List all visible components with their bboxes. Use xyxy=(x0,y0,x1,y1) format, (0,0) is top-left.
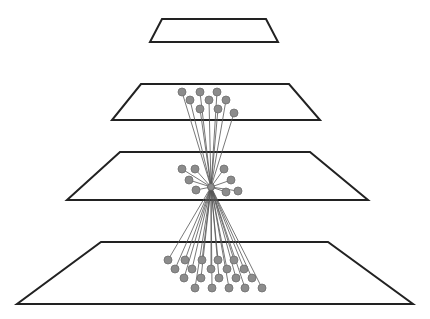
node-lower xyxy=(164,256,172,264)
node-lower xyxy=(214,256,222,264)
node-local xyxy=(192,186,200,194)
node-lower xyxy=(223,265,231,273)
node-upper xyxy=(205,96,213,104)
node-local xyxy=(234,187,242,195)
node-lower xyxy=(232,274,240,282)
node-lower xyxy=(258,284,266,292)
node-local xyxy=(185,176,193,184)
node-lower xyxy=(225,284,233,292)
node-local xyxy=(222,188,230,196)
node-upper xyxy=(196,88,204,96)
node-upper xyxy=(213,88,221,96)
plane-layer-3 xyxy=(67,152,368,200)
hub-node xyxy=(208,184,215,191)
node-lower xyxy=(188,265,196,273)
node-lower xyxy=(191,284,199,292)
node-upper xyxy=(178,88,186,96)
node-upper xyxy=(214,105,222,113)
node-lower xyxy=(248,274,256,282)
node-upper xyxy=(196,105,204,113)
layered-network-diagram xyxy=(0,0,430,319)
node-lower xyxy=(171,265,179,273)
node-lower xyxy=(208,284,216,292)
node-lower xyxy=(181,256,189,264)
node-local xyxy=(227,176,235,184)
node-upper xyxy=(230,109,238,117)
node-local xyxy=(191,165,199,173)
node-local xyxy=(178,165,186,173)
node-upper xyxy=(186,96,194,104)
node-lower xyxy=(240,265,248,273)
plane-layer-1 xyxy=(150,19,278,42)
node-lower xyxy=(197,274,205,282)
node-lower xyxy=(207,265,215,273)
node-local xyxy=(220,165,228,173)
node-lower xyxy=(180,274,188,282)
node-lower xyxy=(241,284,249,292)
node-lower xyxy=(198,256,206,264)
plane-layer-4 xyxy=(17,242,413,304)
node-upper xyxy=(222,96,230,104)
node-lower xyxy=(215,274,223,282)
node-lower xyxy=(230,256,238,264)
